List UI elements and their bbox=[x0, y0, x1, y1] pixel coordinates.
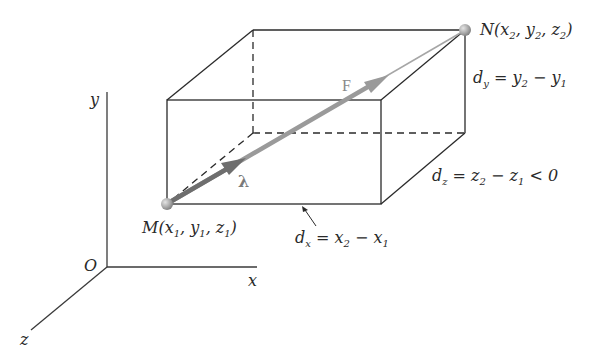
dy-label: dy = y2 − y1 bbox=[473, 68, 567, 89]
lambda-label: λ bbox=[238, 172, 249, 191]
point-N-label: N(x2, y2, z2) bbox=[479, 20, 572, 41]
origin-label: O bbox=[84, 256, 97, 275]
point-M-label: M(x1, y1, z1) bbox=[141, 218, 237, 239]
z-axis-label: z bbox=[19, 330, 29, 349]
dx-label: dx = x2 − x1 bbox=[295, 228, 389, 249]
hidden-edge-bottom-left-depth bbox=[167, 133, 253, 204]
edge-top-left-depth bbox=[167, 30, 253, 100]
edge-top-right-depth bbox=[381, 30, 465, 100]
coordinate-axes bbox=[31, 92, 257, 330]
z-axis bbox=[31, 267, 107, 330]
force-vector-box-diagram: y O x z F λ M(x1, y1, z1) N(x2, y2, z2) … bbox=[0, 0, 597, 358]
point-N bbox=[459, 24, 471, 36]
unit-vector-lambda bbox=[170, 158, 246, 202]
y-axis-label: y bbox=[89, 90, 100, 109]
x-axis-label: x bbox=[248, 271, 257, 290]
dz-label: dz = z2 − z1 < 0 bbox=[432, 166, 558, 187]
dx-leader-arrow bbox=[302, 206, 316, 226]
force-arrowhead bbox=[364, 75, 389, 93]
box-front-face bbox=[167, 100, 381, 204]
point-M bbox=[161, 198, 173, 210]
force-label: F bbox=[342, 77, 351, 94]
